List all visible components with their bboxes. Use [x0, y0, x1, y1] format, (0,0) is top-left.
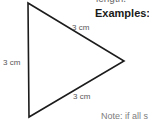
clipped-bottom-text: Note: if all s — [101, 111, 148, 120]
clipped-top-text: length. — [96, 0, 126, 4]
side-label-top-right: 3 cm — [72, 23, 89, 32]
worksheet-fragment: 3 cm 3 cm 3 cm length. Examples: Note: i… — [0, 0, 149, 120]
examples-heading: Examples: — [95, 7, 149, 20]
side-label-bottom-right: 3 cm — [73, 92, 90, 101]
side-label-left: 3 cm — [3, 58, 20, 67]
